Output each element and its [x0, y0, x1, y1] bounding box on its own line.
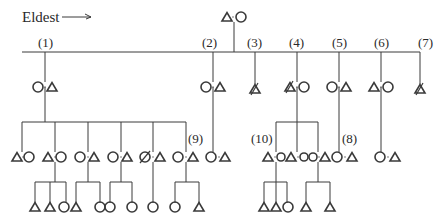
generation-2 [33, 81, 425, 95]
child-circle [148, 202, 158, 212]
child-circle [105, 202, 115, 212]
person-7-deceased [415, 83, 425, 95]
generation-3 [12, 151, 400, 163]
gen3-couple-f [173, 152, 198, 162]
eldest-label: Eldest [22, 9, 60, 25]
child-triangle [301, 203, 311, 212]
gen3-couple-c [75, 152, 99, 162]
gen3-couple-e [140, 151, 165, 163]
gen2-drop-lines [45, 52, 420, 84]
gen3-couple-d [108, 152, 132, 162]
top-couple [222, 12, 246, 22]
sibling-label-2: (2) [202, 35, 217, 50]
gen3-couple-h [332, 152, 357, 162]
sibling-label-1: (1) [38, 35, 53, 50]
child-triangle [45, 203, 55, 212]
female-circle-icon [236, 12, 246, 22]
child-circle [95, 202, 105, 212]
gen3-couple-i [375, 152, 400, 162]
gen3-couple-a [12, 152, 34, 162]
sibling-label-5: (5) [332, 35, 347, 50]
sibling-label-4: (4) [289, 35, 304, 50]
child-circle [170, 202, 180, 212]
sibling-label-6: (6) [374, 35, 389, 50]
person-3-deceased [250, 83, 260, 95]
generation-4 [30, 202, 335, 212]
right-arrow-icon [62, 14, 91, 19]
label-9: (9) [188, 131, 203, 146]
child-triangle [259, 203, 269, 212]
child-circle [59, 202, 69, 212]
gen3-couple-g [206, 152, 230, 162]
child-triangle [71, 203, 81, 212]
sibling-label-7: (7) [418, 35, 433, 50]
sibling-label-3: (3) [247, 35, 262, 50]
child-triangle [30, 203, 40, 212]
gen3-compound-family [263, 153, 330, 162]
child-triangle [325, 203, 335, 212]
label-10: (10) [251, 131, 273, 146]
child-triangle [194, 203, 204, 212]
child-triangle [271, 203, 281, 212]
child-circle [283, 202, 293, 212]
label-8: (8) [342, 131, 357, 146]
child-circle [127, 202, 137, 212]
male-triangle-icon [222, 13, 232, 22]
kinship-diagram: Eldest (1) (2) (3) (4) (5) (6) (7) (9) (… [0, 0, 438, 221]
gen4-connectors [35, 162, 330, 203]
gen3-couple-b [43, 152, 66, 162]
